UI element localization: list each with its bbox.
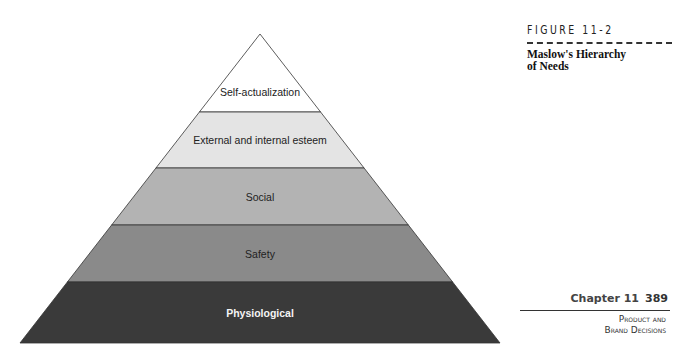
chapter-divider — [520, 310, 670, 311]
pyramid-level-label: Social — [246, 191, 275, 203]
figure-title-line-1: Maslow's Hierarchy — [527, 48, 672, 60]
pyramid-level-label: External and internal esteem — [193, 134, 327, 146]
figure-title: Maslow's Hierarchy of Needs — [527, 48, 672, 72]
section-title-line-2: Brand Decisions — [605, 325, 666, 336]
section-title-line-1: Product and — [605, 314, 666, 325]
chapter-label: Chapter 11 — [571, 292, 639, 305]
maslow-pyramid: Self-actualizationExternal and internal … — [0, 0, 530, 356]
pyramid-level-label: Physiological — [226, 307, 294, 319]
figure-number: FIGURE 11-2 — [527, 22, 614, 37]
figure-divider — [527, 42, 672, 44]
pyramid-level-1 — [199, 34, 320, 112]
chapter-heading: Chapter 11389 — [571, 292, 668, 305]
figure-title-line-2: of Needs — [527, 60, 672, 72]
pyramid-level-label: Self-actualization — [220, 86, 300, 98]
page-number: 389 — [645, 292, 668, 305]
section-title: Product and Brand Decisions — [605, 314, 666, 336]
pyramid-level-label: Safety — [245, 248, 276, 260]
